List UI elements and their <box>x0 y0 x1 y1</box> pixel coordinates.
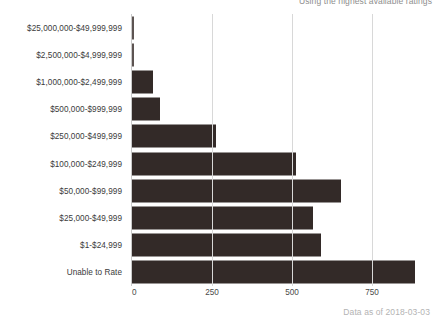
chart-subtitle: Using the highest available ratings <box>299 0 432 6</box>
bar-row: $25,000-$49,999 <box>0 204 440 231</box>
gridline-750 <box>372 14 373 286</box>
bar-row: $1,000,000-$2,499,999 <box>0 68 440 95</box>
bar-row: $250,000-$499,999 <box>0 123 440 150</box>
category-label: Unable to Rate <box>67 268 122 277</box>
bar-row: $100,000-$249,999 <box>0 150 440 177</box>
x-tick-label: 0 <box>132 288 137 297</box>
bar <box>132 98 160 121</box>
category-label: $250,000-$499,999 <box>50 132 122 141</box>
bar <box>132 70 153 93</box>
category-label: $1-$24,999 <box>80 241 122 250</box>
bar <box>132 43 134 66</box>
x-axis: 0250500750 <box>0 288 440 302</box>
category-label: $2,500,000-$4,999,999 <box>36 50 122 59</box>
bar-rows: $25,000,000-$49,999,999$2,500,000-$4,999… <box>0 14 440 286</box>
bar-chart: Using the highest available ratings $25,… <box>0 0 440 325</box>
bar-row: Unable to Rate <box>0 259 440 286</box>
bar <box>132 16 134 39</box>
x-tick-label: 250 <box>205 288 219 297</box>
category-label: $100,000-$249,999 <box>50 159 122 168</box>
x-tick-label: 750 <box>365 288 379 297</box>
bar <box>132 179 341 202</box>
data-timestamp: Data as of 2018-03-03 <box>343 307 430 317</box>
category-label: $50,000-$99,999 <box>59 186 122 195</box>
category-label: $25,000,000-$49,999,999 <box>27 23 122 32</box>
bar-row: $1-$24,999 <box>0 232 440 259</box>
plot-area: $25,000,000-$49,999,999$2,500,000-$4,999… <box>0 14 440 286</box>
bar <box>132 152 296 175</box>
bar-row: $50,000-$99,999 <box>0 177 440 204</box>
bar <box>132 206 313 229</box>
bar-row: $25,000,000-$49,999,999 <box>0 14 440 41</box>
category-label: $25,000-$49,999 <box>59 213 122 222</box>
category-label: $500,000-$999,999 <box>50 105 122 114</box>
category-label: $1,000,000-$2,499,999 <box>36 77 122 86</box>
gridline-250 <box>212 14 213 286</box>
gridline-500 <box>292 14 293 286</box>
bar-row: $500,000-$999,999 <box>0 96 440 123</box>
x-tick-label: 500 <box>285 288 299 297</box>
bar <box>132 125 216 148</box>
bar-row: $2,500,000-$4,999,999 <box>0 41 440 68</box>
